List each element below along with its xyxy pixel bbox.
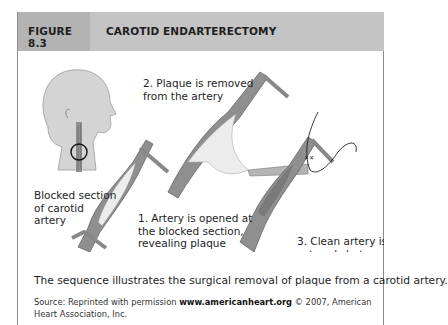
figure-source: Source: Reprinted with permission www.am…	[34, 296, 374, 320]
label-step-1: 1. Artery is opened at the blocked secti…	[138, 212, 252, 250]
figure-box: FIGURE 8.3 CAROTID ENDARTERECTOMY	[17, 12, 384, 325]
endarterectomy-illustration: ✕✕ Blocked section of carotid artery 1. …	[18, 52, 384, 252]
label-blocked-section: Blocked section of carotid artery	[34, 189, 116, 227]
figure-number-cell: FIGURE 8.3	[18, 12, 90, 51]
label-step-3: 3. Clean artery is sutured shut	[297, 235, 384, 252]
figure-number: FIGURE 8.3	[28, 25, 90, 49]
figure-title: CAROTID ENDARTERECTOMY	[106, 25, 276, 37]
source-url[interactable]: www.americanheart.org	[179, 297, 292, 307]
source-prefix: Source: Reprinted with permission	[34, 297, 179, 307]
label-step-2: 2. Plaque is removed from the artery	[143, 77, 253, 102]
figure-header: FIGURE 8.3 CAROTID ENDARTERECTOMY	[18, 12, 384, 51]
figure-caption: The sequence illustrates the surgical re…	[34, 274, 448, 287]
